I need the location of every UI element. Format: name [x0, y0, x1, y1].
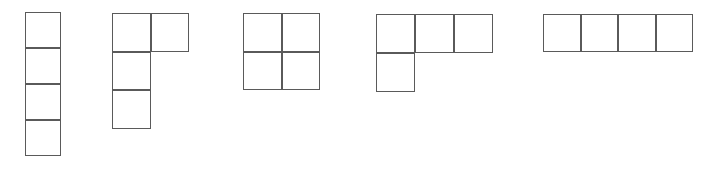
polyomino-cell [112, 90, 151, 129]
polyomino-cell [656, 14, 694, 52]
polyomino-j-tetromino-horizontal [376, 14, 493, 92]
polyomino-j-tetromino-vertical [112, 13, 189, 129]
polyomino-cell [243, 52, 282, 91]
polyomino-cell [618, 14, 656, 52]
polyomino-cell [151, 13, 190, 52]
polyomino-cell [282, 52, 321, 91]
polyomino-vertical-i-tetromino [25, 12, 61, 156]
polyomino-cell [581, 14, 619, 52]
polyomino-cell [282, 13, 321, 52]
polyomino-cell [112, 13, 151, 52]
polyomino-cell [454, 14, 493, 53]
polyomino-cell [25, 120, 61, 156]
polyomino-cell [25, 12, 61, 48]
polyomino-cell [376, 14, 415, 53]
polyomino-cell [25, 84, 61, 120]
polyomino-figure-canvas [0, 0, 703, 183]
polyomino-cell [25, 48, 61, 84]
polyomino-cell [376, 53, 415, 92]
polyomino-cell [243, 13, 282, 52]
polyomino-cell [543, 14, 581, 52]
polyomino-o-tetromino-square [243, 13, 320, 90]
polyomino-horizontal-i-tetromino [543, 14, 693, 52]
polyomino-cell [415, 14, 454, 53]
polyomino-cell [112, 52, 151, 91]
